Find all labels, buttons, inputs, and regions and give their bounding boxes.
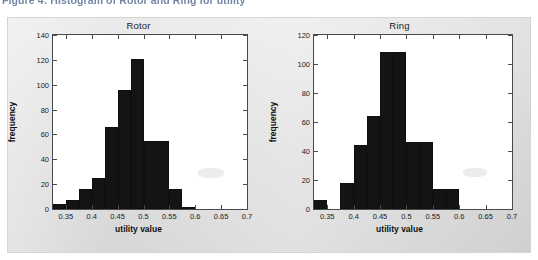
y-axis-tick [243,159,247,160]
scan-smudge [198,168,224,178]
x-axis-tick-label-rotor: 0.35 [59,212,74,221]
histogram-bar [406,142,419,209]
x-axis-tick [486,205,487,209]
y-axis-tick [314,64,318,65]
x-axis-tick [66,35,67,39]
x-axis-tick [195,35,196,39]
y-axis-title-rotor: frequency [7,102,17,143]
y-axis-tick-label-rotor: 60 [41,130,49,139]
y-axis-tick-label-ring: 40 [302,147,310,156]
x-axis-tick [66,205,67,209]
y-axis-tick-label-rotor: 120 [36,55,49,64]
y-axis-tick [243,85,247,86]
x-axis-tick [195,205,196,209]
y-axis-tick [314,180,318,181]
y-axis-tick-label-rotor: 100 [36,80,49,89]
y-axis-tick-label-rotor: 40 [41,155,49,164]
histogram-bar [314,200,327,209]
x-axis-tick-label-ring: 0.6 [454,212,464,221]
y-axis-tick [243,134,247,135]
y-axis-tick-label-ring: 80 [302,89,310,98]
x-axis-tick [169,205,170,209]
y-axis-tick [53,184,57,185]
histogram-bar [367,116,380,209]
x-axis-title-rotor: utility value [8,224,269,234]
x-axis-tick-label-rotor: 0.7 [242,212,252,221]
y-axis-tick [314,35,318,36]
figure-caption-strip: Figure 4: Histogram of Rotor and Ring fo… [0,0,538,14]
x-axis-tick-label-ring: 0.55 [425,212,440,221]
x-axis-tick [354,35,355,39]
x-axis-tick-label-rotor: 0.45 [110,212,125,221]
y-axis-tick [53,159,57,160]
x-axis-tick-label-ring: 0.5 [401,212,411,221]
y-axis-title-ring: frequency [268,102,278,143]
x-axis-tick [118,35,119,39]
x-axis-tick [433,35,434,39]
x-axis-tick [247,35,248,39]
histogram-bar [380,52,393,209]
x-axis-tick [512,205,513,209]
histogram-bar [182,207,195,209]
histogram-bar [66,200,79,209]
x-axis-tick-label-rotor: 0.5 [138,212,148,221]
x-axis-tick [406,205,407,209]
y-axis-tick [53,110,57,111]
y-axis-tick [243,60,247,61]
y-axis-tick-label-ring: 120 [297,31,310,40]
y-axis-tick [508,151,512,152]
histogram-bar [169,189,182,209]
chart-title-rotor: Rotor [8,20,269,31]
x-axis-tick [327,35,328,39]
y-axis-tick [314,151,318,152]
x-axis-tick [459,205,460,209]
x-axis-tick-label-rotor: 0.4 [87,212,97,221]
x-axis-tick-label-rotor: 0.6 [190,212,200,221]
x-axis-tick [486,35,487,39]
y-axis-tick-label-ring: 20 [302,176,310,185]
x-axis-tick [221,35,222,39]
x-axis-tick [92,35,93,39]
x-axis-tick [144,205,145,209]
y-axis-tick [314,93,318,94]
y-axis-tick-label-rotor: 140 [36,31,49,40]
y-axis-tick [508,209,512,210]
y-axis-tick-label-rotor: 20 [41,180,49,189]
x-axis-tick-label-ring: 0.4 [348,212,358,221]
x-axis-tick-label-ring: 0.65 [478,212,493,221]
x-axis-tick [380,35,381,39]
x-axis-tick [169,35,170,39]
y-axis-tick [314,122,318,123]
x-axis-tick [118,205,119,209]
histogram-bar [118,90,131,209]
x-axis-tick-label-ring: 0.35 [320,212,335,221]
subplot-ring: Ring frequency utility value 02040608010… [269,18,530,252]
y-axis-tick [508,122,512,123]
x-axis-tick [92,205,93,209]
x-axis-tick [512,35,513,39]
scan-smudge [463,168,487,177]
histogram-bar [433,189,446,209]
x-axis-tick [247,205,248,209]
histogram-bar [92,178,105,209]
histogram-bar [131,59,144,209]
histogram-bar [393,52,406,209]
histogram-bar [354,145,367,209]
y-axis-tick [243,110,247,111]
y-axis-tick-label-ring: 0 [306,205,310,214]
histogram-bar [105,127,118,209]
y-axis-tick [53,209,57,210]
y-axis-tick [243,184,247,185]
x-axis-tick [380,205,381,209]
subplot-rotor: Rotor frequency utility value 0204060801… [8,18,269,252]
y-axis-tick [53,85,57,86]
y-axis-tick [53,60,57,61]
x-axis-tick-label-rotor: 0.65 [214,212,229,221]
y-axis-tick [508,180,512,181]
x-axis-tick-label-ring: 0.7 [507,212,517,221]
x-axis-title-ring: utility value [269,224,530,234]
x-axis-tick-label-ring: 0.45 [373,212,388,221]
figure-caption: Figure 4: Histogram of Rotor and Ring fo… [2,0,245,6]
histogram-bar [144,141,170,209]
histogram-bar [446,189,459,209]
